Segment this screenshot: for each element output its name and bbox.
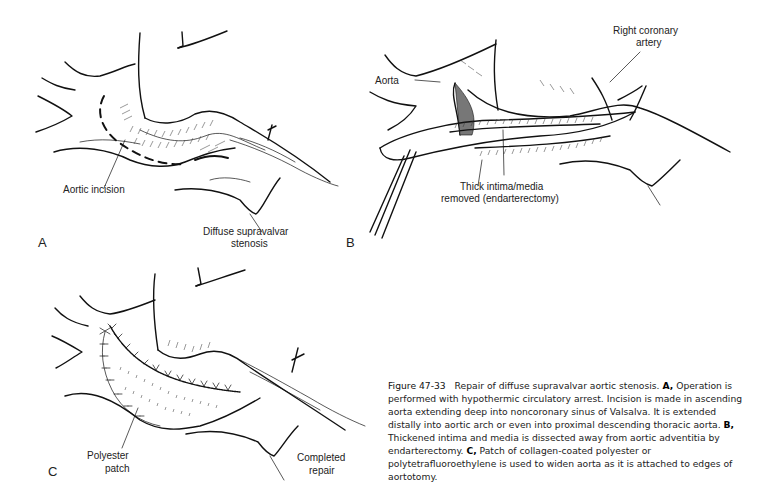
panel-a: Aortic incision Diffuse supravalvar sten… [0, 0, 380, 250]
label-completed-1: Completed [297, 452, 345, 464]
endarterectomy-illustration [360, 0, 760, 250]
caption-panel-a: A, [662, 380, 673, 391]
panel-letter-a: A [38, 235, 47, 250]
panel-letter-c: C [48, 464, 57, 479]
figure-title: Repair of diffuse supravalvar aortic ste… [455, 380, 660, 391]
label-right-coronary-2: artery [636, 37, 662, 49]
label-thick-intima-2: removed (endarterectomy) [441, 193, 559, 205]
label-polyester-2: patch [105, 463, 129, 475]
panel-c: Polyester patch Completed repair C [0, 260, 380, 482]
label-diffuse-stenosis-1: Diffuse supravalvar [203, 226, 288, 238]
label-diffuse-stenosis-2: stenosis [231, 238, 268, 250]
patch-repair-illustration [0, 260, 380, 482]
label-aorta: Aorta [375, 75, 399, 87]
label-right-coronary-1: Right coronary [613, 25, 678, 37]
label-polyester-1: Polyester [87, 450, 129, 462]
figure-number: Figure 47-33 [388, 380, 446, 391]
panel-b: Aorta Right coronary artery Thick intima… [360, 0, 760, 250]
figure-caption: Figure 47-33 Repair of diffuse supravalv… [388, 379, 750, 482]
label-thick-intima-1: Thick intima/media [460, 181, 543, 193]
caption-panel-c: C, [466, 445, 476, 456]
label-completed-2: repair [309, 465, 335, 477]
panel-letter-b: B [346, 235, 355, 250]
caption-panel-b: B, [724, 419, 735, 430]
aortic-incision-illustration [0, 0, 380, 250]
label-aortic-incision: Aortic incision [63, 184, 125, 196]
